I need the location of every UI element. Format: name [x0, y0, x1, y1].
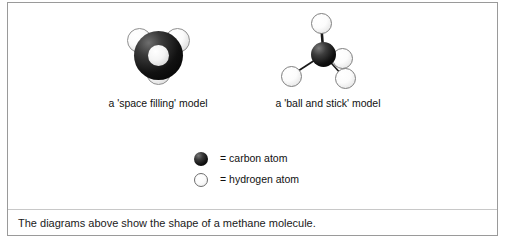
question-panel: a 'space filling' model a 'ball and stic… [7, 2, 498, 236]
carbon-atom-front-face [148, 45, 169, 66]
panel-caption-text: The diagrams above show the shape of a m… [8, 216, 316, 230]
legend-item-carbon: = carbon atom [188, 148, 299, 169]
hydrogen-swatch-wrap [188, 173, 214, 187]
ball-and-stick-model-figure [280, 13, 376, 93]
legend-item-hydrogen: = hydrogen atom [188, 169, 299, 190]
space-filling-model-caption: a 'space filling' model [97, 97, 219, 110]
hydrogen-atom-icon [194, 173, 208, 187]
diagram-area: a 'space filling' model a 'ball and stic… [8, 3, 497, 209]
hydrogen-atom-sphere [335, 68, 356, 89]
carbon-atom-sphere [311, 42, 336, 67]
carbon-atom-sphere [134, 31, 183, 80]
carbon-swatch-wrap [188, 152, 214, 166]
space-filling-model-figure [112, 20, 204, 88]
hydrogen-atom-sphere [311, 13, 332, 34]
panel-caption-bar: The diagrams above show the shape of a m… [8, 210, 497, 235]
ball-and-stick-model-caption: a 'ball and stick' model [256, 97, 400, 110]
hydrogen-atom-sphere [281, 66, 302, 87]
legend-label-carbon: = carbon atom [214, 152, 287, 165]
legend-label-hydrogen: = hydrogen atom [214, 173, 299, 186]
carbon-atom-icon [194, 152, 208, 166]
legend: = carbon atom = hydrogen atom [188, 148, 299, 190]
